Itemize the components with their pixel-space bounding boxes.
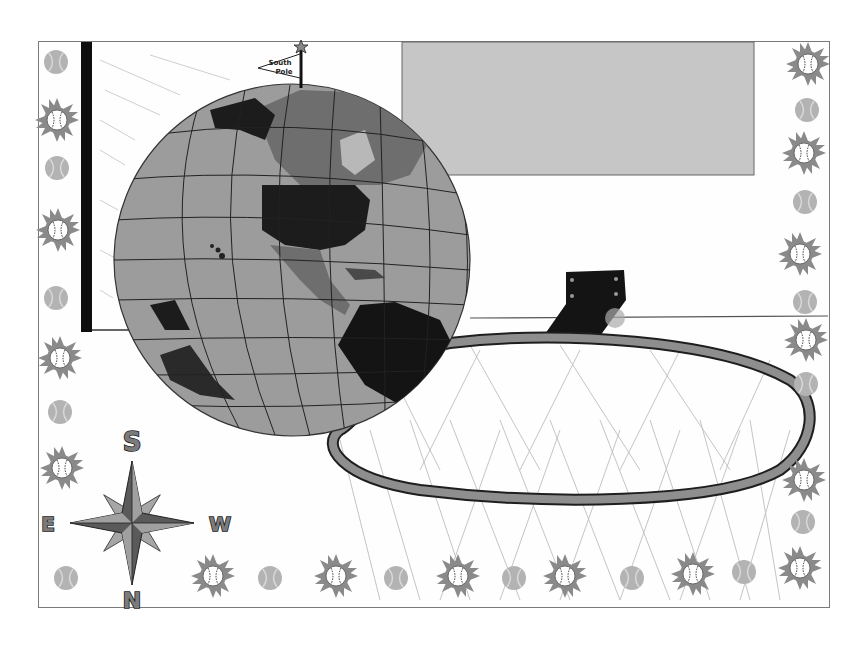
compass-left-letter: E: [41, 512, 55, 536]
backboard: [402, 42, 754, 175]
flag-text-line1: South: [268, 59, 291, 67]
globe: [114, 84, 470, 436]
south-pole-flag: South Pole: [258, 40, 308, 88]
flag-text-line2: Pole: [275, 68, 292, 76]
compass-top-letter: S: [123, 427, 142, 457]
artwork-canvas: South Pole S N E W: [0, 0, 863, 647]
compass-bottom-letter: N: [123, 588, 141, 613]
compass-right-letter: W: [209, 512, 231, 536]
drawing-svg: South Pole S N E W: [0, 0, 863, 647]
border-bottom: [191, 552, 756, 598]
border-left: [35, 50, 84, 590]
hoop-pole: [81, 42, 92, 332]
